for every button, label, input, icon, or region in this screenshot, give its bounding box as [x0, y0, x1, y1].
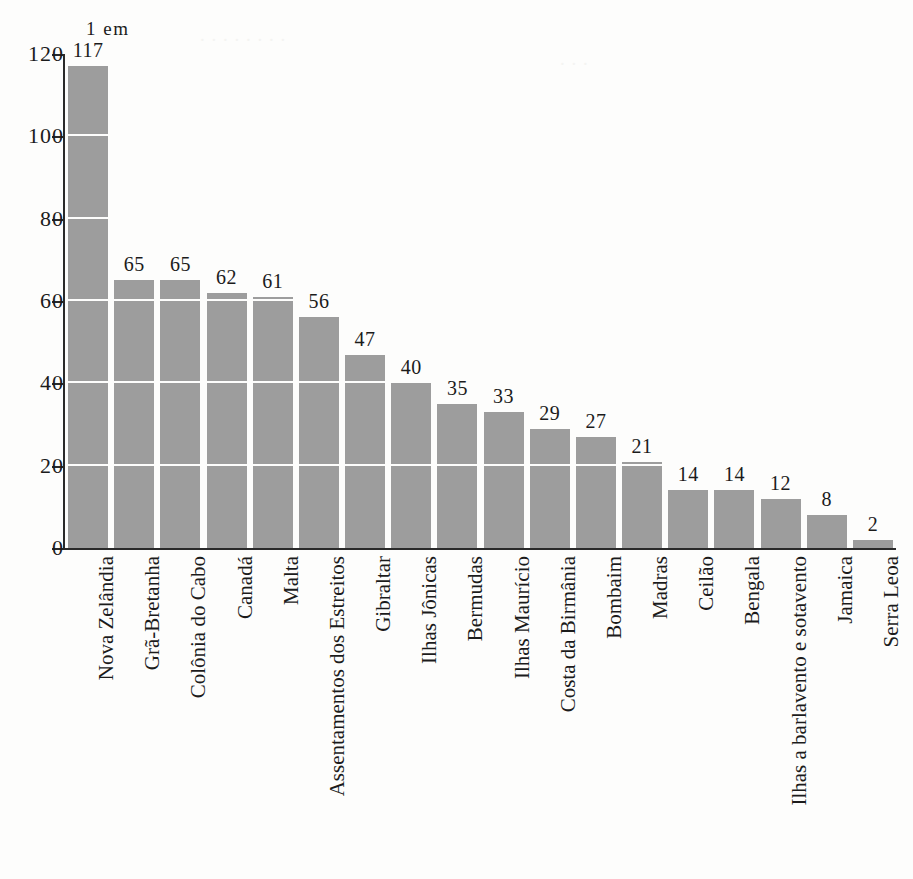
bar-group[interactable]: 12 [761, 54, 801, 548]
bar-value-label: 47 [355, 329, 376, 349]
category-label: Ceilão [696, 556, 717, 611]
y-tick-label: 120 [16, 43, 64, 65]
bar-gridline [253, 464, 293, 466]
bar-gridline [622, 464, 662, 466]
category-label: Madras [650, 556, 671, 619]
category-label: Gibraltar [373, 556, 394, 632]
category-label: Bermudas [465, 556, 486, 641]
bar-value-label: 117 [73, 40, 104, 60]
category-label: Malta [281, 556, 302, 605]
bar-group[interactable]: 65 [160, 54, 200, 548]
y-tick-label: 80 [16, 208, 64, 230]
bar-gridline [160, 381, 200, 383]
category-label: Costa da Birmânia [558, 556, 579, 712]
bar[interactable] [622, 462, 662, 548]
bar[interactable] [391, 383, 431, 548]
bar-value-label: 29 [539, 403, 560, 423]
category-label: Ilhas Maurício [512, 556, 533, 679]
bar-gridline [160, 464, 200, 466]
bar-group[interactable]: 29 [530, 54, 570, 548]
bar-group[interactable]: 21 [622, 54, 662, 548]
bar-group[interactable]: 65 [114, 54, 154, 548]
bar-group[interactable]: 14 [714, 54, 754, 548]
bar[interactable] [299, 317, 339, 548]
bar-gridline [299, 464, 339, 466]
unit-annotation: 1 em [86, 18, 129, 40]
bar-gridline [345, 464, 385, 466]
bar-gridline [299, 381, 339, 383]
bar-value-label: 21 [632, 436, 653, 456]
bar-gridline [68, 134, 108, 136]
bar-gridline [576, 464, 616, 466]
x-axis-line [63, 548, 896, 550]
y-tick-label: 60 [16, 290, 64, 312]
bar-group[interactable]: 56 [299, 54, 339, 548]
bar-gridline [68, 464, 108, 466]
bar-group[interactable]: 8 [807, 54, 847, 548]
category-label: Grã-Bretanha [142, 556, 163, 670]
bar[interactable] [68, 66, 108, 548]
chart-page: . . . . . . . . . . . 1 em 0204060801001… [0, 0, 913, 879]
bar[interactable] [530, 429, 570, 548]
plot-area: 11765656261564740353329272114141282 [65, 54, 896, 548]
category-label: Jamaica [835, 556, 856, 624]
bar-group[interactable]: 33 [484, 54, 524, 548]
bar-group[interactable]: 14 [668, 54, 708, 548]
bar-gridline [530, 464, 570, 466]
bar[interactable] [160, 280, 200, 548]
bar-gridline [114, 381, 154, 383]
category-label: Nova Zelândia [96, 556, 117, 680]
y-tick-label: 100 [16, 125, 64, 147]
bar-value-label: 14 [678, 464, 699, 484]
bar-gridline [114, 299, 154, 301]
bar[interactable] [437, 404, 477, 548]
category-label: Ilhas Jônicas [419, 556, 440, 664]
y-tick-label: 20 [16, 455, 64, 477]
bar-value-label: 40 [401, 357, 422, 377]
category-label: Bombaim [604, 556, 625, 639]
bar-value-label: 12 [770, 473, 791, 493]
bar[interactable] [484, 412, 524, 548]
bar-value-label: 2 [868, 514, 879, 534]
bar-group[interactable]: 27 [576, 54, 616, 548]
bar-value-label: 62 [216, 267, 237, 287]
bar-group[interactable]: 40 [391, 54, 431, 548]
page-bleedthrough-ghost: . . . . . . . . [200, 24, 286, 46]
category-label: Ilhas a barlavento e sotavento [789, 556, 810, 806]
bar-group[interactable]: 61 [253, 54, 293, 548]
bar-gridline [437, 464, 477, 466]
bar-gridline [345, 381, 385, 383]
bar[interactable] [668, 490, 708, 548]
bar-value-label: 65 [170, 254, 191, 274]
bar-value-label: 61 [262, 271, 283, 291]
bar-gridline [253, 299, 293, 301]
bar[interactable] [714, 490, 754, 548]
bar[interactable] [114, 280, 154, 548]
bar-group[interactable]: 117 [68, 54, 108, 548]
bar-value-label: 35 [447, 378, 468, 398]
bar-value-label: 8 [821, 489, 832, 509]
bar-group[interactable]: 2 [853, 54, 893, 548]
bar[interactable] [576, 437, 616, 548]
category-label: Colônia do Cabo [188, 556, 209, 698]
bar-gridline [207, 381, 247, 383]
bar[interactable] [253, 297, 293, 548]
bar-value-label: 33 [493, 386, 514, 406]
bar[interactable] [761, 499, 801, 548]
bar-gridline [207, 464, 247, 466]
y-tick-label: 0 [16, 537, 64, 559]
bar[interactable] [207, 293, 247, 548]
bar[interactable] [853, 540, 893, 548]
bar[interactable] [345, 355, 385, 548]
category-label: Serra Leoa [881, 556, 902, 648]
bar-gridline [68, 299, 108, 301]
bar-group[interactable]: 35 [437, 54, 477, 548]
y-tick-label: 40 [16, 372, 64, 394]
bar-gridline [391, 464, 431, 466]
bar[interactable] [807, 515, 847, 548]
category-label: Bengala [742, 556, 763, 625]
bar-group[interactable]: 62 [207, 54, 247, 548]
bar-value-label: 56 [308, 291, 329, 311]
bar-group[interactable]: 47 [345, 54, 385, 548]
category-label: Canadá [235, 556, 256, 619]
